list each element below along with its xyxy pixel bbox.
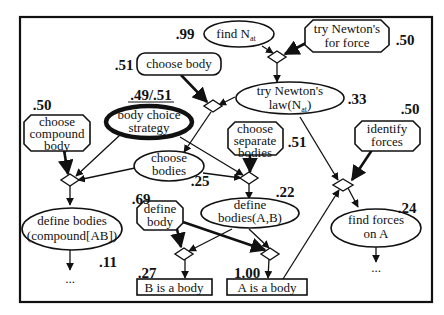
node-probability: 1.00 — [234, 265, 260, 281]
node-choose-compound-body[interactable]: choose compound body .50 — [24, 97, 90, 153]
node-b-is-a-body[interactable]: B is a body .27 — [137, 265, 212, 295]
node-probability: .69 — [132, 191, 151, 207]
node-label: (compound[AB]) — [27, 228, 117, 243]
node-label: try Newton's — [257, 83, 323, 98]
node-probability: .11 — [99, 254, 117, 270]
node-choose-body[interactable]: choose body .51 — [115, 53, 221, 75]
node-label: try Newton's — [314, 21, 380, 36]
node-probability: .50 — [33, 97, 52, 113]
node-label: bodies(A,B) — [218, 210, 282, 225]
node-find-nat[interactable]: find Nat .99 — [176, 21, 274, 47]
node-define-bodies-ab[interactable]: define bodies(A,B) .22 — [201, 184, 299, 228]
node-probability: .22 — [276, 184, 295, 200]
node-label: body — [147, 214, 174, 229]
node-label: law(N — [269, 97, 302, 112]
diagram-canvas: find Nat .99 try Newton's for force .50 … — [0, 0, 444, 315]
junction-diamond — [268, 51, 286, 63]
node-define-body[interactable]: define body .69 — [132, 191, 183, 230]
node-try-newtons-law[interactable]: try Newton's law(Nat) .33 — [236, 82, 366, 114]
node-define-bodies-compound[interactable]: define bodies (compound[AB]) .11 — [22, 208, 122, 270]
node-probability: .50 — [401, 101, 420, 117]
node-probability: .51 — [288, 134, 307, 150]
node-choose-bodies[interactable]: choose bodies .25 — [134, 150, 209, 189]
node-identify-forces[interactable]: identify forces .50 — [355, 101, 420, 151]
node-label: on A — [364, 226, 390, 241]
node-label: find N — [216, 26, 250, 41]
node-label: B is a body — [145, 280, 204, 295]
node-label: A is a body — [238, 280, 297, 295]
node-probability: .24 — [398, 200, 417, 216]
junction-diamond — [240, 172, 258, 184]
node-probability: .33 — [348, 91, 367, 107]
node-label: define bodies — [37, 213, 107, 228]
node-probability: .99 — [176, 26, 195, 42]
node-find-forces-on-a[interactable]: find forces on A .24 — [331, 200, 421, 247]
node-body-choice-strategy[interactable]: body choice strategy .49/.51 — [106, 87, 192, 138]
node-label: choose body — [146, 56, 212, 71]
node-probability: .49/.51 — [130, 87, 172, 103]
node-label: body — [44, 138, 71, 153]
node-choose-separate-bodies[interactable]: choose separate bodies .51 — [228, 121, 306, 160]
node-probability: .25 — [191, 173, 210, 189]
node-probability: .50 — [396, 32, 415, 48]
node-label: forces — [371, 134, 403, 149]
node-label: for force — [324, 35, 369, 50]
continuation-ellipsis: ... — [371, 260, 381, 275]
junction-diamond — [333, 179, 353, 191]
edges — [64, 43, 376, 279]
node-try-newtons-for-force[interactable]: try Newton's for force .50 — [305, 20, 414, 52]
continuation-ellipsis: ... — [65, 271, 75, 286]
node-label: bodies — [152, 163, 186, 178]
node-label: bodies — [238, 145, 272, 160]
node-probability: .51 — [115, 57, 134, 73]
node-probability: .27 — [138, 265, 157, 281]
node-label: find forces — [348, 212, 404, 227]
node-label: strategy — [128, 120, 170, 135]
node-a-is-a-body[interactable]: A is a body 1.00 — [227, 265, 307, 295]
